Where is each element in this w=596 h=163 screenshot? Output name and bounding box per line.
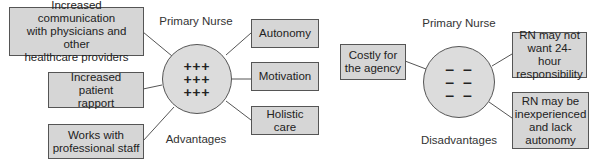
connector-inexperienced	[489, 102, 512, 118]
connector-rapport	[143, 85, 162, 89]
box-text: Increased patient rapport	[52, 71, 140, 110]
advantages-circle: +++ +++ +++	[162, 44, 232, 114]
disadvantages-circle: – – – – – –	[423, 46, 495, 118]
box-costly-for-agency: Costly for the agency	[340, 44, 406, 80]
box-text: Motivation	[259, 70, 311, 83]
plus-symbols-row: +++	[184, 86, 210, 99]
box-holistic-care: Holistic care	[251, 106, 319, 135]
box-increased-communication: Increased communication with physicians …	[9, 7, 144, 56]
box-rn-may-be-inexperienced: RN may be inexperienced and lack autonom…	[512, 92, 589, 149]
connector-holistic-care	[226, 101, 251, 120]
connector-communication	[143, 32, 172, 56]
advantages-caption: Advantages	[166, 133, 227, 145]
box-increased-patient-rapport: Increased patient rapport	[48, 72, 144, 108]
box-text: Holistic care	[255, 108, 315, 134]
box-autonomy: Autonomy	[251, 19, 319, 48]
box-rn-may-not-want-24-hour: RN may not want 24-hour responsibility	[512, 32, 587, 78]
plus-symbols-row: +++	[184, 60, 210, 73]
box-text: Autonomy	[259, 27, 311, 40]
box-text: Increased communication with physicians …	[13, 0, 140, 64]
box-works-with-professional-staff: Works with professional staff	[48, 124, 144, 159]
advantages-title: Primary Nurse	[159, 15, 232, 27]
connector-costly	[405, 61, 426, 69]
box-text: RN may be inexperienced and lack autonom…	[515, 95, 587, 147]
disadvantages-title: Primary Nurse	[422, 17, 495, 29]
disadvantages-caption: Disadvantages	[421, 134, 497, 146]
box-text: Works with professional staff	[53, 129, 140, 155]
connector-autonomy	[226, 33, 251, 55]
connector-24-hour	[492, 54, 512, 66]
plus-symbols-row: +++	[184, 73, 210, 86]
minus-symbols-row: – –	[446, 76, 472, 89]
minus-symbols-row: – –	[446, 63, 472, 76]
box-motivation: Motivation	[251, 62, 319, 91]
box-text: RN may not want 24-hour responsibility	[516, 29, 583, 81]
box-text: Costly for the agency	[345, 49, 401, 75]
minus-symbols-row: – –	[446, 89, 472, 102]
